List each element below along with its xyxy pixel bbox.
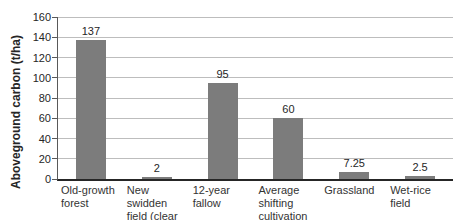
bar (208, 83, 238, 179)
bar (339, 172, 369, 179)
y-axis-tick-label: 140 (0, 31, 51, 43)
category-label-line: Average shifting (258, 184, 321, 210)
gridline (58, 138, 453, 139)
category-label-line: field (clear cut) (127, 210, 190, 220)
y-axis-tick-label: 40 (0, 133, 51, 145)
bar-value-label: 7.25 (321, 157, 387, 169)
category-label: Grassland (321, 184, 387, 220)
y-axis-tick-label: 120 (0, 52, 51, 64)
y-axis-tick-label: 60 (0, 112, 51, 124)
category-label-line: fallow (193, 197, 256, 210)
y-axis-tick-mark (52, 179, 57, 180)
y-axis-tick-mark (52, 158, 57, 159)
y-axis-tick-mark (52, 77, 57, 78)
gridline (58, 98, 453, 99)
bar (76, 40, 106, 179)
bar (273, 118, 303, 179)
y-axis-tick-mark (52, 118, 57, 119)
y-axis-tick-mark (52, 98, 57, 99)
bar-value-label: 2 (124, 162, 190, 174)
category-label-line: New swidden (127, 184, 190, 210)
gridline (58, 158, 453, 159)
y-axis-tick-mark (52, 37, 57, 38)
y-axis-tick-label: 100 (0, 72, 51, 84)
gridline (58, 17, 453, 18)
y-axis-tick-label: 160 (0, 11, 51, 23)
category-label-line: Grassland (324, 184, 387, 197)
bar-value-label: 2.5 (387, 161, 453, 173)
y-axis-tick-label: 80 (0, 92, 51, 104)
y-axis-tick-labels: 020406080100120140160 (0, 17, 51, 179)
category-label: Wet-ricefield (387, 184, 453, 220)
bar (142, 177, 172, 179)
category-label: Average shiftingcultivation land (255, 184, 321, 220)
y-axis-tick-mark (52, 57, 57, 58)
category-label: 12-yearfallow (190, 184, 256, 220)
category-label-line: 12-year (193, 184, 256, 197)
bar-chart-figure: Aboveground carbon (t/ha) 02040608010012… (0, 0, 469, 220)
y-axis-tick-label: 20 (0, 153, 51, 165)
x-axis-category-labels: Old-growthforestNew swiddenfield (clear … (58, 184, 453, 220)
category-label-line: Old-growth (61, 184, 124, 197)
bar-value-label: 60 (256, 103, 322, 115)
category-label-line: field (390, 197, 453, 210)
y-axis-tick-label: 0 (0, 173, 51, 185)
y-axis-tick-mark (52, 17, 57, 18)
plot-area: 137295607.252.5 (57, 17, 453, 181)
category-label-line: Wet-rice (390, 184, 453, 197)
bar (405, 176, 435, 179)
category-label-line: forest (61, 197, 124, 210)
gridline (58, 57, 453, 58)
gridline (58, 77, 453, 78)
gridline (58, 118, 453, 119)
category-label: New swiddenfield (clear cut) (124, 184, 190, 220)
bar-value-label: 95 (190, 68, 256, 80)
category-label: Old-growthforest (58, 184, 124, 220)
category-label-line: cultivation land (258, 210, 321, 220)
y-axis-tick-mark (52, 138, 57, 139)
bar-value-label: 137 (58, 25, 124, 37)
